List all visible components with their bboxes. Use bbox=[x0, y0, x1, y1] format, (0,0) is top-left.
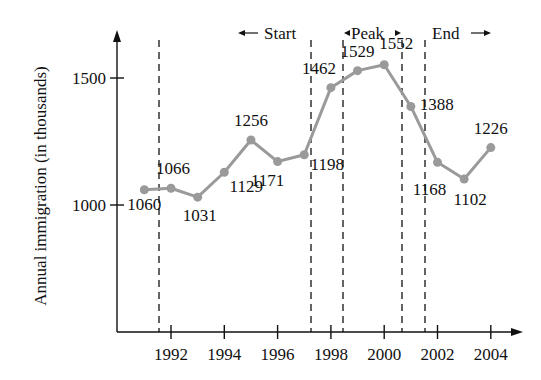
data-point bbox=[380, 60, 389, 69]
arrow-left-icon bbox=[238, 30, 245, 36]
data-point bbox=[140, 185, 149, 194]
x-ticks: 1992199419961998200020022004 bbox=[154, 325, 508, 364]
x-tick-label: 1994 bbox=[207, 345, 242, 364]
data-point bbox=[246, 135, 255, 144]
data-label: 1066 bbox=[156, 159, 190, 178]
data-label: 1171 bbox=[251, 171, 284, 190]
data-point bbox=[326, 83, 335, 92]
data-point bbox=[273, 157, 282, 166]
x-tick-label: 1992 bbox=[154, 345, 188, 364]
data-label: 1552 bbox=[379, 34, 413, 53]
phase-annotations: Start Peak End bbox=[238, 24, 491, 43]
y-axis-arrow-icon bbox=[113, 30, 121, 42]
x-tick-label: 1996 bbox=[261, 345, 295, 364]
data-point bbox=[353, 66, 362, 75]
y-ticks: 1500 1000 bbox=[72, 69, 124, 215]
x-axis-arrow-icon bbox=[511, 328, 523, 336]
data-label: 1102 bbox=[453, 190, 486, 209]
data-point bbox=[433, 158, 442, 167]
phase-boundaries bbox=[159, 40, 425, 332]
x-tick-label: 1998 bbox=[314, 345, 348, 364]
data-point bbox=[167, 184, 176, 193]
data-label: 1168 bbox=[413, 180, 446, 199]
x-tick-label: 2000 bbox=[367, 345, 401, 364]
y-tick-label: 1500 bbox=[72, 69, 106, 88]
data-label: 1031 bbox=[183, 206, 217, 225]
data-label: 1462 bbox=[302, 59, 336, 78]
start-label: Start bbox=[264, 24, 296, 43]
series-line bbox=[144, 65, 490, 197]
data-labels: 1060106610311129125611711198146215291552… bbox=[127, 34, 507, 225]
data-point bbox=[220, 168, 229, 177]
data-point bbox=[193, 193, 202, 202]
data-label: 1198 bbox=[311, 155, 344, 174]
y-axis-label: Annual immigration (in thousands) bbox=[31, 66, 50, 305]
immigration-line-chart: 1500 1000 1992199419961998200020022004 A… bbox=[0, 0, 541, 380]
data-point bbox=[406, 102, 415, 111]
end-label: End bbox=[432, 24, 460, 43]
data-point bbox=[460, 175, 469, 184]
arrow-right-icon bbox=[484, 30, 491, 36]
data-point bbox=[486, 143, 495, 152]
data-label: 1060 bbox=[127, 195, 161, 214]
data-label: 1529 bbox=[341, 42, 375, 61]
x-tick-label: 2004 bbox=[474, 345, 509, 364]
x-tick-label: 2002 bbox=[421, 345, 455, 364]
data-point bbox=[300, 150, 309, 159]
arrow-left-icon bbox=[344, 30, 350, 36]
y-tick-label: 1000 bbox=[72, 196, 106, 215]
data-label: 1226 bbox=[474, 119, 508, 138]
data-label: 1388 bbox=[420, 95, 454, 114]
data-label: 1256 bbox=[234, 111, 268, 130]
